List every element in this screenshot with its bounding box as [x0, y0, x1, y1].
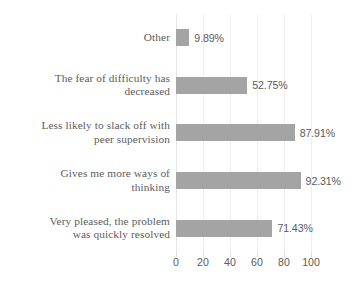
bar[interactable] [176, 124, 295, 141]
bar[interactable] [176, 77, 247, 94]
x-tick-label-40: 40 [224, 256, 236, 269]
category-label-line: Less likely to slack off with [4, 119, 170, 133]
category-label: Very pleased, the problemwas quickly res… [4, 215, 170, 242]
category-label: Gives me more ways ofthinking [4, 167, 170, 194]
category-label: Other [4, 31, 170, 45]
category-label: The fear of difficulty hasdecreased [4, 72, 170, 99]
category-label-line: peer supervision [4, 133, 170, 147]
bar[interactable] [176, 172, 301, 189]
x-tick-label-100: 100 [302, 256, 320, 269]
bar-value-label: 71.43% [277, 222, 312, 234]
bar-value-label: 9.89% [194, 32, 224, 44]
bar[interactable] [176, 29, 189, 46]
category-label: Less likely to slack off withpeer superv… [4, 119, 170, 146]
bar[interactable] [176, 220, 272, 237]
bar-value-label: 87.91% [300, 127, 335, 139]
bar-value-label: 52.75% [252, 79, 287, 91]
category-label-line: thinking [4, 181, 170, 195]
bar-row: Gives me more ways ofthinking92.31% [0, 157, 355, 205]
bar-value-label: 92.31% [306, 175, 341, 187]
category-label-line: Other [4, 31, 170, 45]
bar-row: The fear of difficulty hasdecreased52.75… [0, 62, 355, 110]
x-tick-label-60: 60 [251, 256, 263, 269]
category-label-line: Gives me more ways of [4, 167, 170, 181]
x-tick-label-0: 0 [173, 256, 179, 269]
x-tick-label-80: 80 [278, 256, 290, 269]
plot-area: Other9.89%The fear of difficulty hasdecr… [0, 0, 355, 304]
bar-rows: Other9.89%The fear of difficulty hasdecr… [0, 14, 355, 252]
x-tick-label-20: 20 [197, 256, 209, 269]
x-axis: 020406080100 [176, 256, 311, 274]
bar-row: Less likely to slack off withpeer superv… [0, 109, 355, 157]
bar-row: Very pleased, the problemwas quickly res… [0, 204, 355, 252]
category-label-line: The fear of difficulty has [4, 72, 170, 86]
category-label-line: Very pleased, the problem [4, 215, 170, 229]
category-label-line: decreased [4, 85, 170, 99]
bar-chart: Other9.89%The fear of difficulty hasdecr… [0, 0, 355, 304]
category-label-line: was quickly resolved [4, 228, 170, 242]
bar-row: Other9.89% [0, 14, 355, 62]
